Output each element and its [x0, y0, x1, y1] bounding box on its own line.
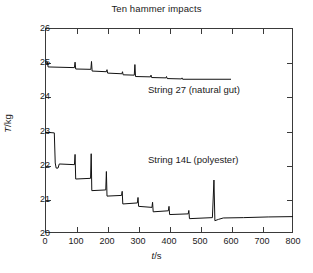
series-line-1	[45, 61, 231, 79]
x-tick-label: 400	[161, 236, 176, 246]
x-tick-label: 700	[254, 236, 269, 246]
chart-title: Ten hammer impacts	[0, 3, 313, 14]
x-tick-label: 200	[99, 236, 114, 246]
series-annotation-upper: String 27 (natural gut)	[148, 84, 240, 95]
x-axis-title: t/s	[0, 250, 313, 261]
x-axis-title-unit: /s	[154, 250, 161, 261]
x-tick-label: 500	[192, 236, 207, 246]
x-tick-label: 800	[285, 236, 300, 246]
x-tick-label: 600	[223, 236, 238, 246]
y-axis-title-unit: /kg	[2, 114, 13, 127]
x-tick-label: 100	[68, 236, 83, 246]
x-tick-label: 300	[130, 236, 145, 246]
series-line-2	[45, 132, 293, 220]
y-axis-title-symbol: T	[2, 127, 13, 133]
chart-figure: Ten hammer impacts 010020030040050060070…	[0, 0, 313, 273]
y-axis-title: T/kg	[2, 104, 13, 144]
series-annotation-lower: String 14L (polyester)	[148, 154, 238, 165]
data-curves	[45, 28, 293, 233]
